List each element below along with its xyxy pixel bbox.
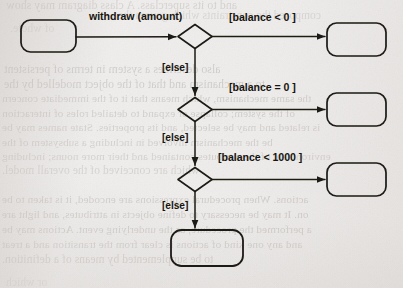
- uml-state-diagram: [0, 0, 403, 288]
- state-start: [21, 20, 76, 52]
- decision-diamond-3: [178, 168, 212, 192]
- label-else-3: [else]: [162, 201, 188, 211]
- label-else-2: [else]: [162, 133, 188, 143]
- decision-diamond-1: [178, 25, 212, 49]
- state-balance-negative: [327, 23, 386, 56]
- decision-diamond-2: [178, 98, 212, 122]
- label-guard-balance-negative: [balance < 0 ]: [229, 12, 296, 23]
- label-else-1: [else]: [162, 63, 188, 73]
- scanned-page: and to its superclass. A class diagram m…: [0, 0, 403, 288]
- state-balance-small: [327, 163, 386, 196]
- label-guard-balance-zero: [balance = 0 ]: [229, 82, 296, 93]
- state-final: [171, 230, 243, 266]
- label-guard-balance-small: [balance < 1000 ]: [218, 152, 302, 163]
- label-trigger-withdraw: withdraw (amount): [89, 11, 182, 22]
- state-balance-zero: [327, 93, 386, 126]
